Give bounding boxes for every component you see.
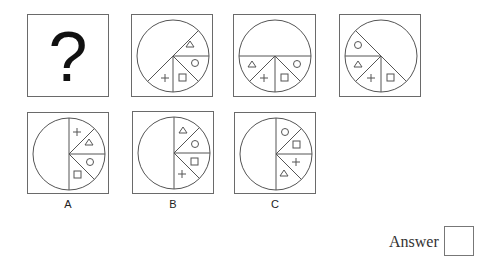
question-panel: ? xyxy=(27,14,109,97)
question-mark: ? xyxy=(28,19,108,95)
pie-figure xyxy=(28,113,110,195)
pie-figure xyxy=(234,15,317,98)
plus-icon xyxy=(260,74,268,82)
triangle-icon xyxy=(85,139,93,145)
option-b-label: B xyxy=(132,198,214,210)
triangle-icon xyxy=(248,61,256,67)
plus-icon xyxy=(161,74,169,82)
option-a-label: A xyxy=(27,198,109,210)
pie-figure xyxy=(133,112,215,195)
sequence-figure-3 xyxy=(339,14,421,97)
sequence-figure-2 xyxy=(233,14,316,97)
circle-icon xyxy=(192,141,199,148)
option-c-label: C xyxy=(234,198,316,210)
triangle-icon xyxy=(354,61,362,67)
square-icon xyxy=(387,74,394,81)
plus-icon xyxy=(367,74,375,82)
pie-figure xyxy=(235,113,317,195)
square-icon xyxy=(179,74,186,81)
square-icon xyxy=(281,74,288,81)
square-icon xyxy=(74,171,81,178)
pie-figure xyxy=(340,15,422,98)
pie-figure xyxy=(132,15,214,98)
triangle-icon xyxy=(280,170,288,176)
answer-input-box[interactable] xyxy=(444,226,474,256)
plus-icon xyxy=(73,128,81,136)
option-c[interactable] xyxy=(234,112,316,194)
circle-icon xyxy=(355,42,362,49)
sequence-figure-1 xyxy=(131,14,213,97)
plus-icon xyxy=(178,170,186,178)
triangle-icon xyxy=(179,127,187,133)
square-icon xyxy=(293,141,300,148)
option-a[interactable] xyxy=(27,112,109,194)
square-icon xyxy=(191,158,198,165)
circle-icon xyxy=(87,159,94,166)
option-b[interactable] xyxy=(132,111,214,194)
circle-icon xyxy=(192,60,199,67)
circle-icon xyxy=(294,61,301,68)
answer-label: Answer xyxy=(389,233,439,251)
circle-icon xyxy=(282,129,289,136)
plus-icon xyxy=(292,158,300,166)
